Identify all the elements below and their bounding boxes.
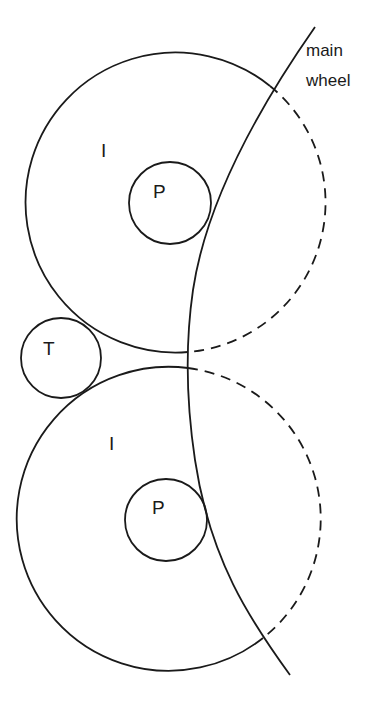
- main-wheel-label-line1: main: [306, 41, 343, 60]
- pinion-top-label: P: [153, 181, 166, 202]
- pinion-top-circle: [129, 162, 211, 244]
- idler-bottom-label: I: [109, 433, 114, 454]
- transfer-circle: [21, 318, 101, 398]
- pinion-bottom-label: P: [152, 497, 165, 518]
- gear-train-diagram: main wheel I P T I P: [0, 0, 386, 702]
- main-wheel-arc: [188, 27, 315, 675]
- transfer-label: T: [43, 338, 55, 359]
- idler-bottom-circle-solid: [17, 367, 263, 671]
- main-wheel-label-line2: wheel: [305, 71, 350, 90]
- idler-top-label: I: [101, 140, 106, 161]
- idler-bottom-circle-dashed: [188, 368, 321, 638]
- idler-top-circle-solid: [26, 53, 270, 353]
- pinion-bottom-circle: [125, 479, 207, 561]
